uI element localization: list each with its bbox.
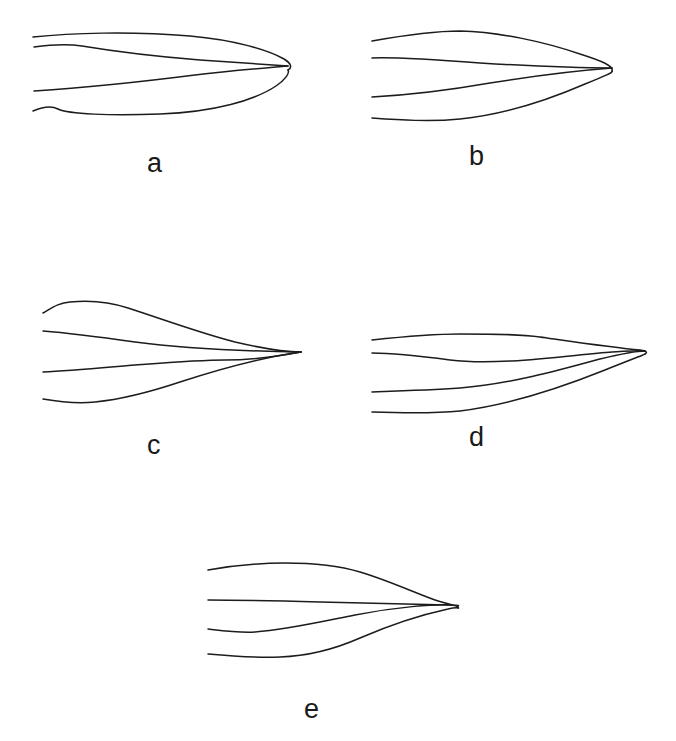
panel-a-drawing xyxy=(33,33,291,115)
panel-e-drawing xyxy=(208,563,459,657)
panel-label-c: c xyxy=(147,432,161,459)
panel-a-curve-4 xyxy=(33,70,288,115)
panel-d-drawing xyxy=(372,334,646,413)
wing-outline-drawings xyxy=(0,0,676,741)
panel-e-curve-3 xyxy=(208,605,452,632)
panel-c-drawing xyxy=(43,301,301,403)
panel-label-a: a xyxy=(147,150,162,177)
panel-e-curve-1 xyxy=(208,563,458,608)
panel-d-curve-4 xyxy=(372,354,645,413)
panel-a-curve-1 xyxy=(33,33,291,70)
panel-label-b: b xyxy=(469,143,484,170)
panel-c-curve-4 xyxy=(43,352,301,403)
panel-a-curve-3 xyxy=(34,66,288,91)
panel-d-curve-2 xyxy=(372,351,645,362)
figure-plate: a b c d e xyxy=(0,0,676,741)
panel-label-d: d xyxy=(469,424,484,451)
panel-b-drawing xyxy=(372,31,612,121)
panel-label-e: e xyxy=(304,696,319,723)
panel-b-curve-4 xyxy=(372,71,612,121)
panel-a-curve-2 xyxy=(34,45,288,66)
panel-b-curve-3 xyxy=(372,68,612,97)
panel-b-curve-1 xyxy=(372,31,612,71)
panel-c-curve-1 xyxy=(43,301,301,352)
panel-e-curve-2 xyxy=(208,600,458,606)
panel-c-curve-2 xyxy=(43,331,301,352)
panel-c-curve-3 xyxy=(43,352,301,372)
panel-b-curve-2 xyxy=(372,58,612,68)
panel-d-curve-3 xyxy=(372,351,645,392)
panel-d-curve-1 xyxy=(372,334,646,354)
